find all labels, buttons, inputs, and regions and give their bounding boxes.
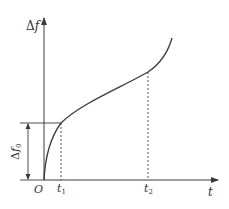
response-curve — [44, 38, 172, 180]
delta-f0-label: Δf0 — [9, 144, 23, 161]
x-axis-label: t — [208, 185, 213, 199]
y-axis-label: Δf — [26, 19, 42, 33]
t1-label: t1 — [57, 182, 66, 196]
t2-label: t2 — [144, 182, 153, 196]
origin-label: O — [34, 183, 43, 196]
diagram-canvas: Δf t O t1 t2 Δf0 — [0, 0, 229, 209]
